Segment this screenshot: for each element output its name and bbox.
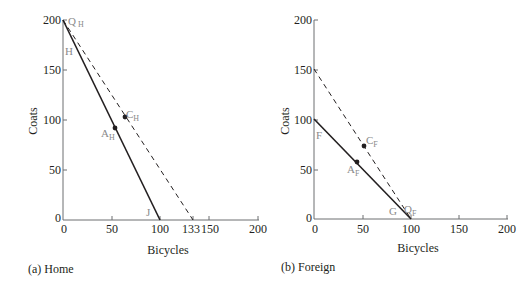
foreign-label-F: F xyxy=(316,129,322,141)
home-xtick-200: 200 xyxy=(249,222,267,236)
home-label-QH: QH xyxy=(68,15,84,29)
home-label-AH: AH xyxy=(101,127,115,142)
foreign-y-ticks xyxy=(314,20,318,170)
foreign-yaxis-title: Coats xyxy=(278,107,292,135)
foreign-point-AF xyxy=(355,160,360,165)
foreign-xaxis-title: Bicycles xyxy=(397,241,439,255)
home-label-H: H xyxy=(65,45,73,57)
foreign-label-QF: QF xyxy=(404,203,417,218)
home-ytick-150: 150 xyxy=(43,63,61,77)
home-xaxis-title: Bicycles xyxy=(147,243,189,257)
home-caption: (a) Home xyxy=(28,262,74,276)
foreign-label-CF: CF xyxy=(366,134,378,149)
foreign-xtick-150: 150 xyxy=(450,222,468,236)
foreign-trade-line xyxy=(314,69,411,219)
foreign-ytick-100: 100 xyxy=(294,113,312,127)
foreign-ppf-line xyxy=(314,119,411,219)
foreign-xtick-200: 200 xyxy=(498,222,516,236)
home-xtick-0: 0 xyxy=(61,222,67,236)
figure: 200 150 100 50 0 0 50 100 133 150 200 QH… xyxy=(0,0,525,289)
home-ppf-line xyxy=(63,20,160,220)
foreign-ytick-50: 50 xyxy=(300,163,312,177)
panel-foreign: 200 150 100 50 0 0 50 100 150 200 F CF A… xyxy=(278,13,516,274)
home-xtick-150: 150 xyxy=(201,222,219,236)
home-xtick-50: 50 xyxy=(106,222,118,236)
foreign-ytick-200: 200 xyxy=(294,13,312,27)
foreign-ytick-150: 150 xyxy=(294,63,312,77)
panel-home: 200 150 100 50 0 0 50 100 133 150 200 QH… xyxy=(26,13,267,276)
home-ytick-200: 200 xyxy=(43,13,61,27)
foreign-xtick-100: 100 xyxy=(402,222,420,236)
foreign-caption: (b) Foreign xyxy=(281,260,335,274)
foreign-xtick-50: 50 xyxy=(357,222,369,236)
home-trade-line xyxy=(63,20,193,220)
home-y-ticks xyxy=(63,20,67,170)
home-ytick-100: 100 xyxy=(43,113,61,127)
home-x-ticks xyxy=(112,216,258,220)
home-label-J: J xyxy=(146,206,151,218)
home-xtick-133: 133 xyxy=(182,222,200,236)
foreign-label-G: G xyxy=(389,205,397,217)
home-point-AH xyxy=(113,126,118,131)
foreign-x-ticks xyxy=(363,215,507,219)
foreign-xtick-0: 0 xyxy=(312,222,318,236)
home-xtick-100: 100 xyxy=(151,222,169,236)
home-ytick-50: 50 xyxy=(49,163,61,177)
home-yaxis-title: Coats xyxy=(26,107,40,135)
